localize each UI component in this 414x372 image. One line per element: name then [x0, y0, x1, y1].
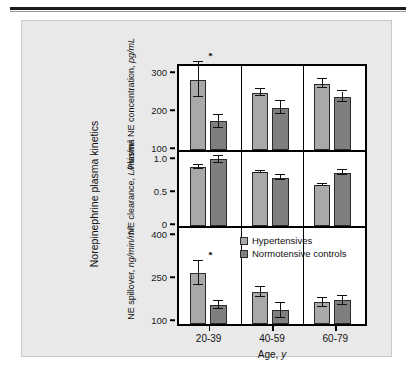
chart-legend: Hypertensives Normotensive controls	[240, 235, 347, 261]
y-tick-label: 400	[137, 229, 167, 240]
bar-group-20-39	[179, 152, 241, 226]
error-bar-cap	[337, 169, 347, 170]
bar-normotensive-controls-60-79	[334, 97, 351, 150]
y-tick-mark	[170, 276, 175, 278]
error-bar-cap	[213, 155, 223, 156]
y-tick-mark	[170, 109, 175, 111]
legend-label-normotensive-controls: Normotensive controls	[252, 248, 347, 259]
significance-asterisk: *	[208, 251, 213, 260]
legend-item-normotensive-controls: Normotensive controls	[240, 248, 347, 259]
x-axis-title-text: Age,	[258, 349, 279, 360]
bar-normotensive-controls-60-79	[334, 173, 351, 226]
y-tick-mark	[170, 190, 175, 192]
x-tick-mark	[335, 326, 337, 331]
x-tick-mark	[272, 326, 274, 331]
error-bar-cap	[275, 302, 285, 303]
y-axis-label-line1: NE spillover,	[126, 270, 136, 320]
significance-asterisk: *	[208, 52, 213, 61]
error-bar-cap	[337, 174, 347, 175]
error-bar-cap	[337, 90, 347, 91]
y-axis-title-panel-bot: NE spillover, ng/min/m²	[126, 206, 137, 342]
y-tick-label: 250	[137, 272, 167, 283]
error-bar-cap	[275, 317, 285, 318]
error-bar-cap	[337, 295, 347, 296]
figure-root: Norepinephrine plasma kinetics Plasma NE…	[0, 0, 414, 372]
error-bar-cap	[275, 113, 285, 114]
y-axis-label-line2: concentration,	[126, 65, 136, 122]
y-axis-label-unit: ng/min/m²	[126, 227, 136, 267]
error-bar-cap	[275, 174, 285, 175]
bar-normotensive-controls-40-59	[272, 178, 289, 226]
bar-normotensive-controls-20-39	[210, 159, 227, 226]
x-tick-label-60-79: 60-79	[307, 333, 363, 344]
x-tick-mark	[209, 326, 211, 331]
y-tick-label: 100	[137, 315, 167, 326]
annotation-group: *	[179, 66, 241, 150]
y-tick-mark	[170, 71, 175, 73]
bar-group-40-59	[241, 66, 303, 150]
y-tick-label: 200	[137, 105, 167, 116]
y-tick-label: 1.0	[137, 153, 167, 164]
plot-area: * *	[177, 64, 367, 326]
panel-plasma-ne-concentration: *	[179, 66, 365, 152]
x-axis-title-unit: y	[281, 349, 286, 360]
error-bar-cap	[275, 100, 285, 101]
y-axis-label-unit: pg/mL	[126, 38, 136, 63]
y-tick-mark	[170, 157, 175, 159]
y-tick-label: 300	[137, 67, 167, 78]
y-tick-mark	[170, 223, 175, 225]
bar-group-40-59	[241, 152, 303, 226]
figure-panel: Norepinephrine plasma kinetics Plasma NE…	[21, 20, 392, 357]
y-tick-mark	[170, 233, 175, 235]
error-bar-cap	[275, 179, 285, 180]
y-axis-label-unit: L/min/m²	[126, 140, 136, 175]
annotation-group: *	[179, 228, 241, 324]
bar-group-60-79	[303, 152, 365, 226]
bar-group-60-79	[303, 66, 365, 150]
y-tick-mark	[170, 147, 175, 149]
legend-label-hypertensives: Hypertensives	[252, 235, 312, 246]
top-rule-shadow	[10, 11, 406, 12]
y-tick-mark	[170, 319, 175, 321]
top-rule	[10, 7, 406, 10]
legend-swatch-hypertensives	[240, 237, 248, 245]
x-tick-label-40-59: 40-59	[244, 333, 300, 344]
panel-ne-clearance	[179, 152, 365, 228]
figure-outer-axis-label: Norepinephrine plasma kinetics	[88, 74, 100, 314]
x-axis-title: Age, y	[177, 349, 367, 360]
error-bar-cap	[337, 101, 347, 102]
error-bar-stem	[280, 303, 281, 318]
x-tick-label-20-39: 20-39	[181, 333, 237, 344]
error-bar-cap	[337, 304, 347, 305]
legend-swatch-normotensive-controls	[240, 250, 248, 258]
y-tick-label: 0.5	[137, 186, 167, 197]
legend-item-hypertensives: Hypertensives	[240, 235, 347, 246]
error-bar-cap	[213, 162, 223, 163]
error-bar-cap	[193, 61, 203, 62]
